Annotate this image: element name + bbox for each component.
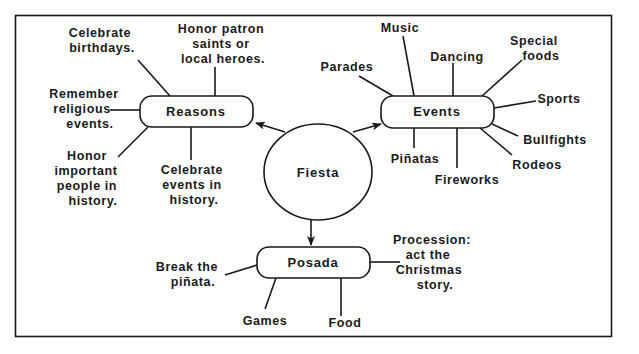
reason-honor-patron-saints: Honor patron saints or local heroes. — [178, 22, 268, 66]
posada-break-the-pinata: Break the piñata. — [156, 260, 222, 289]
event-sports: Sports — [537, 92, 580, 106]
event-music: Music — [381, 21, 419, 35]
reason-honor-important-people: Honor important people in history. — [54, 149, 121, 208]
event-fireworks: Fireworks — [435, 173, 499, 187]
event-pinatas: Piñatas — [391, 152, 440, 166]
posada-node: Posada — [257, 247, 370, 278]
posada-procession: Procession: act the Christmas story. — [393, 233, 475, 292]
event-rodeos: Rodeos — [512, 158, 561, 172]
posada-label: Posada — [287, 255, 338, 270]
events-node: Events — [381, 96, 494, 128]
posada-games: Games — [243, 314, 288, 328]
arrow-to-events — [353, 124, 381, 132]
events-label: Events — [413, 104, 460, 119]
reasons-label: Reasons — [166, 104, 226, 119]
event-bullfights: Bullfights — [523, 133, 587, 147]
reasons-node: Reasons — [140, 96, 253, 127]
event-parades: Parades — [321, 60, 374, 74]
arrow-to-reasons — [256, 123, 285, 132]
posada-food: Food — [329, 316, 362, 330]
fiesta-node: Fiesta — [264, 124, 372, 220]
event-dancing: Dancing — [430, 50, 484, 64]
fiesta-concept-map: Fiesta Reasons Events Posada Celebrate b… — [0, 0, 639, 354]
fiesta-label: Fiesta — [297, 165, 339, 180]
reason-celebrate-events-in-history: Celebrate events in history. — [161, 163, 227, 207]
event-special-foods: Special foods — [510, 34, 562, 63]
reason-celebrate-birthdays: Celebrate birthdays. — [69, 26, 135, 55]
reason-remember-religious-events: Remember religious events. — [49, 87, 123, 131]
